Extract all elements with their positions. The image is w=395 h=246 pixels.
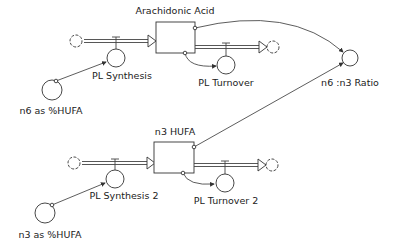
source-cloud-icon-2	[68, 157, 80, 169]
flow-pl-synthesis-2[interactable]	[82, 157, 155, 170]
pl-synthesis-label: PL Synthesis	[92, 70, 152, 81]
ratio-label: n6 :n3 Ratio	[321, 77, 379, 88]
link-n3-to-turnover	[183, 173, 214, 184]
flow-pl-synthesis[interactable]	[84, 35, 156, 49]
n3-pct-label: n3 as %HUFA	[18, 229, 82, 240]
stock-arachidonic-acid-label: Arachidonic Acid	[135, 5, 214, 16]
pl-turnover-2-label: PL Turnover 2	[194, 195, 258, 206]
stock-n3-hufa-label: n3 HUFA	[155, 126, 196, 137]
pl-synthesis-2-valve-circle[interactable]	[106, 170, 124, 188]
n6-pct-label: n6 as %HUFA	[19, 105, 83, 116]
sink-cloud-icon	[267, 41, 279, 53]
stock-n3-hufa[interactable]	[154, 142, 194, 173]
pl-synthesis-2-label: PL Synthesis 2	[90, 190, 159, 201]
pl-turnover-label: PL Turnover	[198, 77, 253, 88]
ratio-converter[interactable]	[342, 50, 358, 66]
pl-turnover-valve-circle[interactable]	[217, 56, 235, 74]
source-cloud-icon	[70, 35, 82, 47]
sink-cloud-icon-2	[266, 159, 278, 171]
flow-pl-turnover[interactable]	[195, 41, 267, 56]
pl-turnover-2-valve-circle[interactable]	[216, 174, 234, 192]
flow-pl-turnover-2[interactable]	[194, 159, 266, 174]
link-n3hufa-to-ratio	[194, 63, 343, 147]
pl-synthesis-valve-circle[interactable]	[107, 49, 125, 67]
link-stock-to-turnover	[185, 53, 216, 66]
stock-flow-diagram: PL Synthesis Arachidonic Acid PL Turnove…	[0, 0, 395, 246]
n6-pct-converter[interactable]	[42, 80, 62, 100]
stock-arachidonic-acid[interactable]	[156, 22, 195, 53]
